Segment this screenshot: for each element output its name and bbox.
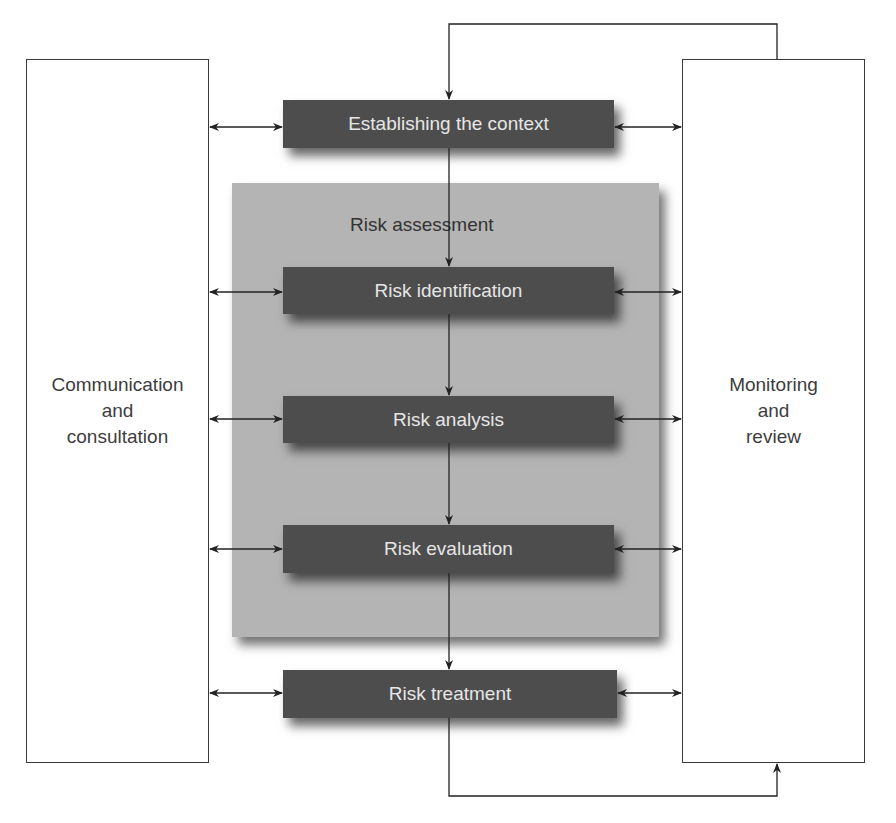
step-risk-evaluation: Risk evaluation: [283, 525, 614, 573]
risk-management-diagram: Communication and consultation Monitorin…: [0, 0, 896, 823]
monitoring-review-box: Monitoring and review: [682, 59, 865, 763]
step-risk-identification: Risk identification: [283, 267, 614, 314]
communication-consultation-label: Communication and consultation: [52, 372, 184, 450]
step-establishing-context: Establishing the context: [283, 100, 614, 148]
step-risk-treatment: Risk treatment: [283, 670, 617, 718]
communication-consultation-box: Communication and consultation: [26, 59, 209, 763]
risk-assessment-label: Risk assessment: [350, 214, 494, 236]
monitoring-review-label: Monitoring and review: [729, 372, 818, 450]
step-risk-analysis: Risk analysis: [283, 396, 614, 443]
